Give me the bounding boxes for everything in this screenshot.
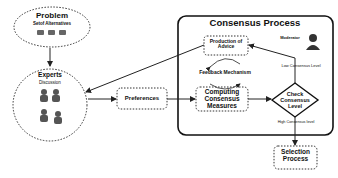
computing-consensus-measures-label: Computing Consensus Measures (196, 89, 248, 109)
problem-title: Problem (22, 12, 82, 20)
feedback-mechanism-label: Feedback Mechanism (195, 70, 255, 75)
consensus-process-box (178, 16, 333, 135)
arrow-advice-experts (86, 45, 204, 92)
alternatives-icons (37, 30, 66, 35)
low-consensus-level-label: Low Consensus Level (270, 64, 332, 68)
consensus-process-title: Consensus Process (180, 18, 330, 28)
experts-subtitle: Discussion (25, 81, 75, 86)
selection-process-label: Selection Process (274, 149, 317, 163)
moderator-icon (306, 34, 320, 50)
experts-people-icons (40, 89, 62, 124)
moderator-label: Moderator (272, 36, 308, 40)
high-consensus-level-label: High Consensus level (265, 120, 327, 124)
feedback-arc-top (210, 59, 240, 67)
production-of-advice-label: Production of Advice (204, 39, 248, 50)
check-consensus-level-label: Check Consensus Level (276, 92, 314, 109)
experts-title: Experts (25, 72, 75, 79)
problem-subtitle: Setof Alternatives (17, 22, 87, 27)
preferences-label: Preferences (117, 95, 167, 101)
